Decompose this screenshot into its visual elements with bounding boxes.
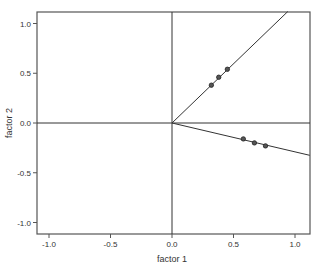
y-tick-label: 1.0	[20, 20, 32, 29]
factor-plot: -1.0-0.50.00.51.0 -1.0-0.50.00.51.0 fact…	[0, 0, 319, 269]
y-tick-label: 0.5	[20, 69, 32, 78]
x-tick-label: -1.0	[42, 240, 56, 249]
fit-lines	[172, 12, 310, 156]
fit-line-1	[172, 12, 288, 123]
data-points	[209, 67, 268, 148]
data-point	[241, 137, 245, 141]
x-tick-label: 1.0	[289, 240, 301, 249]
x-tick-label: 0.5	[228, 240, 240, 249]
y-tick-label: 0.0	[20, 119, 32, 128]
data-point	[263, 144, 267, 148]
data-point	[225, 67, 229, 71]
data-point	[209, 83, 213, 87]
y-tick-label: -0.5	[17, 169, 31, 178]
data-point	[252, 141, 256, 145]
data-point	[217, 75, 221, 79]
x-axis-ticks: -1.0-0.50.00.51.0	[42, 234, 301, 249]
x-tick-label: -0.5	[104, 240, 118, 249]
y-tick-label: -1.0	[17, 219, 31, 228]
x-axis-label: factor 1	[157, 254, 187, 264]
y-axis-ticks: -1.0-0.50.00.51.0	[17, 20, 37, 228]
x-tick-label: 0.0	[166, 240, 178, 249]
y-axis-label: factor 2	[4, 108, 14, 138]
